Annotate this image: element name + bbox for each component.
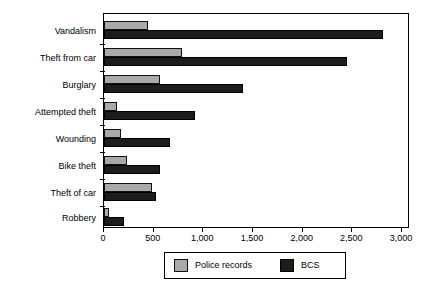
y-axis-label-theft-of-car: Theft of car [0,188,96,198]
y-axis-label-burglary: Burglary [0,80,96,90]
bar-police-records-theft-from-car [104,48,182,57]
legend: Police records BCS [164,252,346,279]
y-axis-tick [100,125,105,126]
y-axis-tick [100,152,105,153]
x-axis-tick-label: 2,000 [290,233,313,244]
y-axis-label-wounding: Wounding [0,134,96,144]
x-axis: 05001,0001,5002,0002,5003,000 [103,228,409,248]
x-axis-tick-label: 3,000 [390,233,413,244]
x-axis-tick-label: 0 [100,233,105,244]
bar-bcs-attempted-theft [104,111,195,120]
y-axis-tick [100,98,105,99]
x-axis-tick-label: 500 [145,233,160,244]
bar-police-records-attempted-theft [104,102,117,111]
y-axis-tick [100,44,105,45]
legend-label-bcs: BCS [301,260,320,271]
y-axis-category-labels: Vandalism Theft from car Burglary Attemp… [0,13,96,228]
bcs-swatch-icon [280,259,294,272]
y-axis-label-bike-theft: Bike theft [0,161,96,171]
bar-police-records-vandalism [104,21,148,30]
y-axis-label-attempted-theft: Attempted theft [0,107,96,117]
x-axis-tick [401,228,402,232]
bar-police-records-wounding [104,129,121,138]
y-axis-tick [100,71,105,72]
plot-area [103,13,409,228]
x-axis-tick-label: 2,500 [340,233,363,244]
y-axis-tick [100,206,105,207]
bar-bcs-theft-from-car [104,57,347,66]
y-axis-label-vandalism: Vandalism [0,26,96,36]
y-axis-tick [100,179,105,180]
police-records-swatch-icon [174,259,188,272]
plot-bars-container [104,14,408,227]
bar-police-records-theft-of-car [104,183,152,192]
x-axis-tick [103,228,104,232]
y-axis-label-robbery: Robbery [0,213,96,223]
bar-bcs-bike-theft [104,165,160,174]
x-axis-tick [202,228,203,232]
x-axis-tick [351,228,352,232]
bar-police-records-bike-theft [104,156,127,165]
x-axis-tick [302,228,303,232]
legend-item-bcs: BCS [280,253,320,278]
legend-label-police-records: Police records [195,260,252,271]
bar-bcs-robbery [104,217,124,226]
bar-police-records-burglary [104,75,160,84]
bar-bcs-wounding [104,138,170,147]
y-axis-label-theft-from-car: Theft from car [0,53,96,63]
bar-chart: Vandalism Theft from car Burglary Attemp… [0,0,445,295]
legend-item-police-records: Police records [174,253,252,278]
bar-bcs-vandalism [104,30,383,39]
bar-bcs-theft-of-car [104,192,156,201]
x-axis-tick-label: 1,000 [191,233,214,244]
x-axis-tick [252,228,253,232]
x-axis-tick-label: 1,500 [241,233,264,244]
bar-bcs-burglary [104,84,243,93]
bar-police-records-robbery [104,208,109,217]
x-axis-tick [153,228,154,232]
